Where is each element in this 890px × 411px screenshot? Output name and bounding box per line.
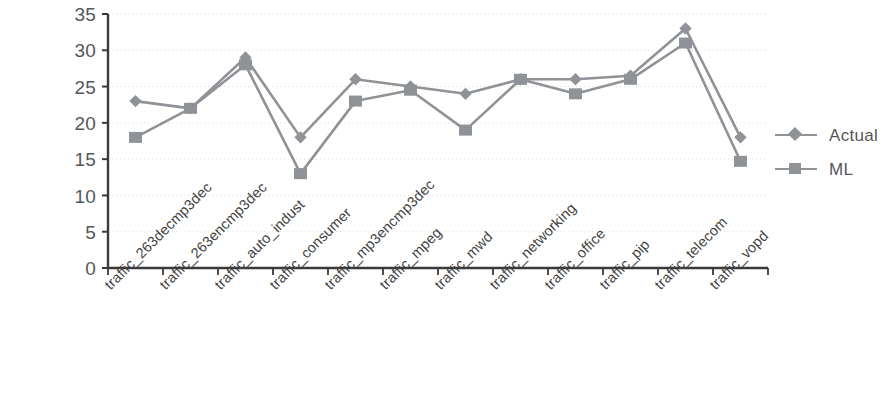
x-tick-label: traffic_263decmp3dec <box>102 180 215 293</box>
legend-entry-ml: ML <box>775 152 887 186</box>
legend-label: Actual <box>817 127 878 144</box>
chart-legend: Actual ML <box>775 118 887 186</box>
x-tick-label: traffic_pip <box>597 237 653 293</box>
chart-screenshot: 35 30 25 20 15 10 5 0 traffic_263decmp3d… <box>0 0 890 411</box>
square-marker-icon <box>775 161 817 177</box>
legend-entry-actual: Actual <box>775 118 887 152</box>
x-axis-tick-labels: traffic_263decmp3dectraffic_263encmp3dec… <box>0 0 890 411</box>
x-tick-label: traffic_263encmp3dec <box>157 180 270 293</box>
x-tick-label: traffic_mp3encmp3dec <box>322 177 438 293</box>
diamond-marker-icon <box>775 127 817 143</box>
legend-label: ML <box>817 161 853 178</box>
